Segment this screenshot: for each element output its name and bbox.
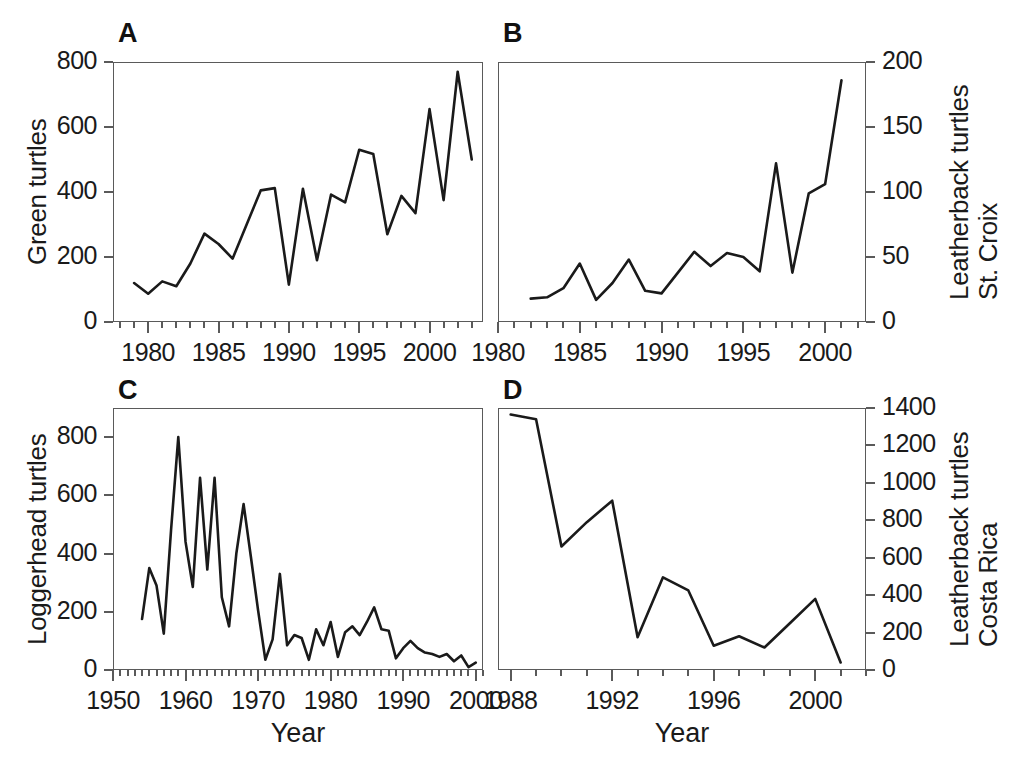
panel-d-y-tick-label: 800 [882,504,972,533]
panel-d-y-tick-label: 400 [882,579,972,608]
figure-root: A Green turtles Year B Leatherback turtl… [0,0,1015,781]
panel-d-x-tick-label: 2000 [770,686,860,715]
panel-d-x-tick-mark [611,670,613,681]
panel-d-y-tick-mark [866,519,875,521]
panel-d-x-tick-mark [662,670,664,676]
panel-d-y-tick-label: 600 [882,542,972,571]
panel-d-x-tick-label: 1996 [669,686,759,715]
panel-d-x-tick-mark [814,670,816,681]
panel-d-y-tick-mark [866,632,875,634]
panel-d-y-tick-label: 1000 [882,467,972,496]
panel-d-y-tick-label: 1200 [882,429,972,458]
panel-d-series-line [0,0,1015,781]
panel-d-x-tick-mark [840,670,842,676]
panel-d-x-tick-mark [586,670,588,676]
panel-d-y-tick-mark [866,594,875,596]
panel-d-x-tick-label: 1988 [466,686,556,715]
panel-d-y-tick-mark [866,407,875,409]
panel-d-x-tick-mark [535,670,537,676]
panel-d-y-tick-mark [866,444,875,446]
panel-d-x-tick-label: 1992 [567,686,657,715]
panel-d-y-tick-mark [866,557,875,559]
panel-d-x-tick-mark [687,670,689,676]
panel-d-x-tick-mark [738,670,740,676]
panel-d-y-tick-label: 0 [882,654,972,683]
panel-d-y-tick-mark [866,482,875,484]
panel-d-y-tick-mark [866,669,875,671]
panel-d-x-tick-mark [510,670,512,681]
panel-d-y-tick-label: 200 [882,617,972,646]
panel-d-x-tick-mark [865,670,867,676]
panel-d-x-tick-mark [713,670,715,681]
panel-d-x-tick-mark [637,670,639,676]
panel-d-x-tick-mark [560,670,562,676]
panel-d-x-tick-mark [763,670,765,676]
panel-d-y-tick-label: 1400 [882,392,972,421]
panel-d-x-tick-mark [789,670,791,676]
